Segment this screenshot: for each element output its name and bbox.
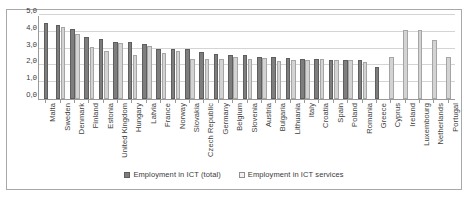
bar-group: [355, 16, 369, 99]
bar-employment-ict-total: [128, 42, 133, 99]
bar-employment-ict-total: [156, 49, 161, 99]
x-axis-labels: MaltaSwedenDenmarkFinlandEstoniaUnited K…: [38, 103, 455, 169]
bar-employment-ict-services: [334, 60, 339, 99]
bar-employment-ict-total: [300, 59, 305, 99]
bar-group: [370, 16, 384, 99]
bar-employment-ict-services: [75, 34, 80, 99]
y-axis-tick-mark: [34, 60, 37, 61]
bar-employment-ict-services: [118, 43, 123, 99]
x-axis-category-label: Croatia: [321, 103, 330, 128]
bar-group: [298, 16, 312, 99]
bar-employment-ict-total: [228, 55, 233, 99]
bar-employment-ict-services: [219, 59, 224, 99]
bar-employment-ict-services: [363, 62, 368, 99]
bar-employment-ict-services: [446, 57, 451, 99]
bar-employment-ict-total: [199, 52, 204, 99]
bar-employment-ict-services: [248, 59, 253, 99]
chart-legend: Employment in ICT (total)Employment in I…: [7, 170, 461, 179]
y-axis-tick-mark: [34, 94, 37, 95]
bar-employment-ict-total: [44, 23, 49, 99]
bar-employment-ict-services: [205, 59, 210, 99]
bar-group: [226, 16, 240, 99]
x-axis-category-label: Slovenia: [250, 103, 259, 133]
bar-employment-ict-services: [389, 57, 394, 99]
x-axis-category-label: Latvia: [149, 103, 158, 124]
bar-employment-ict-total: [329, 60, 334, 99]
bar-employment-ict-total: [56, 25, 61, 99]
bar-employment-ict-services: [291, 60, 296, 99]
bar-group: [283, 16, 297, 99]
bar-group: [111, 16, 125, 99]
bar-group: [39, 16, 53, 99]
bar-employment-ict-services: [133, 55, 138, 99]
bar-employment-ict-total: [343, 60, 348, 99]
bar-employment-ict-services: [320, 59, 325, 99]
bar-employment-ict-total: [113, 42, 118, 99]
x-axis-category-label: Cyprus: [393, 103, 402, 127]
bar-employment-ict-services: [104, 51, 109, 99]
bar-employment-ict-services: [277, 61, 282, 99]
bar-group: [341, 16, 355, 99]
x-axis-category-label: Lithuania: [293, 103, 302, 134]
x-axis-category-label: Romania: [365, 103, 374, 134]
bar-employment-ict-services: [305, 60, 310, 99]
bar-employment-ict-total: [185, 49, 190, 99]
x-axis-category-label: Czech Republic: [206, 103, 215, 157]
bar-group: [413, 16, 427, 99]
bar-employment-ict-total: [214, 54, 219, 99]
bar-employment-ict-services: [61, 27, 66, 99]
y-axis: 0,01,02,03,04,05,0: [13, 10, 37, 94]
bar-employment-ict-services: [403, 30, 408, 99]
x-axis-category-label: Portugal: [451, 103, 460, 132]
bar-employment-ict-total: [70, 29, 75, 99]
x-axis-category-label: Estonia: [106, 103, 115, 129]
bar-group: [168, 16, 182, 99]
bar-employment-ict-services: [90, 47, 95, 99]
x-axis-category-label: Spain: [336, 103, 345, 123]
bar-employment-ict-total: [286, 58, 291, 99]
bar-employment-ict-total: [171, 49, 176, 99]
legend-item: Employment in ICT (total): [124, 170, 220, 179]
x-axis-category-label: Slovakia: [192, 103, 201, 132]
chart-frame: 0,01,02,03,04,05,0 MaltaSwedenDenmarkFin…: [6, 9, 462, 190]
bar-group: [398, 16, 412, 99]
bar-group: [125, 16, 139, 99]
legend-item: Employment in ICT services: [239, 170, 344, 179]
bars-layer: [39, 16, 455, 99]
gridline: [39, 14, 455, 15]
bar-group: [327, 16, 341, 99]
legend-swatch-services: [239, 172, 245, 178]
bar-group: [312, 16, 326, 99]
bar-group: [269, 16, 283, 99]
y-axis-tick-mark: [34, 77, 37, 78]
bar-group: [82, 16, 96, 99]
bar-employment-ict-services: [262, 58, 267, 99]
x-axis-category-label: Ireland: [408, 103, 417, 127]
bar-group: [154, 16, 168, 99]
plot-area-wrapper: [38, 16, 455, 100]
bar-group: [240, 16, 254, 99]
bar-group: [140, 16, 154, 99]
x-axis-category-label: Norway: [178, 103, 187, 129]
bar-group: [255, 16, 269, 99]
plot-area: [38, 16, 455, 100]
bar-group: [212, 16, 226, 99]
bar-group: [53, 16, 67, 99]
x-axis-category-label: France: [163, 103, 172, 127]
bar-employment-ict-total: [375, 67, 380, 99]
x-axis-category-label: Malta: [48, 103, 57, 122]
bar-employment-ict-services: [176, 51, 181, 99]
bar-employment-ict-services: [233, 57, 238, 99]
bar-employment-ict-total: [84, 37, 89, 99]
bar-employment-ict-services: [147, 46, 152, 99]
y-axis-tick-mark: [34, 10, 37, 11]
bar-group: [68, 16, 82, 99]
x-axis-category-label: Sweden: [63, 103, 72, 131]
bar-employment-ict-total: [142, 44, 147, 99]
x-axis-category-label: Hungary: [134, 103, 143, 132]
bar-employment-ict-total: [257, 57, 262, 99]
bar-group: [197, 16, 211, 99]
x-axis-category-label: Bulgaria: [278, 103, 287, 131]
bar-employment-ict-services: [190, 59, 195, 99]
bar-employment-ict-total: [358, 60, 363, 99]
